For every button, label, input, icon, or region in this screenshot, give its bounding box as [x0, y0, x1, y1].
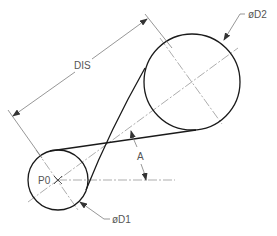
- extension-line-large: [145, 14, 172, 48]
- dimension-line-lower: [13, 72, 75, 116]
- dimension-line-upper: [92, 19, 147, 59]
- belt-tangent-crossing: [86, 68, 145, 190]
- distance-label: DIS: [74, 60, 91, 71]
- center-line-large-perp: [160, 38, 222, 124]
- center-lines: [28, 38, 238, 210]
- large-diameter-leader: [224, 14, 245, 40]
- angle-label: A: [137, 151, 144, 162]
- small-diameter-leader: [80, 202, 110, 219]
- belt-tangent-upper: [50, 130, 196, 151]
- small-diameter-label: øD1: [112, 214, 131, 225]
- origin-point-label: P0: [38, 175, 51, 186]
- technical-drawing: P0 DIS A øD2 øD1: [0, 0, 277, 236]
- angle-arc-lower: [141, 164, 146, 180]
- extension-line-small: [8, 110, 42, 158]
- large-diameter-label: øD2: [248, 9, 267, 20]
